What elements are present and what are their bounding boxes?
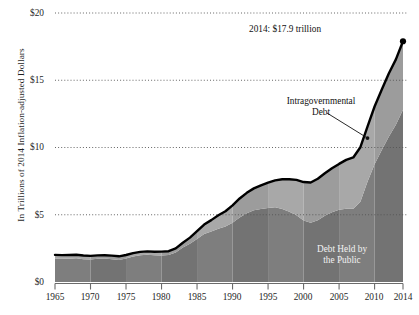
debt-chart: In Trillions of 2014 Inflation-adjusted … xyxy=(0,0,419,315)
plot-area xyxy=(0,0,419,315)
public-band xyxy=(197,9,233,286)
public-band xyxy=(126,9,162,286)
x-tick-2000: 2000 xyxy=(294,292,313,302)
x-tick-1980: 1980 xyxy=(152,292,171,302)
public-debt-label-line2: the Public xyxy=(299,255,385,266)
endpoint-annotation: 2014: $17.9 trillion xyxy=(249,24,321,35)
x-tick-2010: 2010 xyxy=(365,292,384,302)
x-tick-1975: 1975 xyxy=(117,292,136,302)
x-tick-2005: 2005 xyxy=(330,292,349,302)
x-tick-1970: 1970 xyxy=(81,292,100,302)
x-tick-2014: 2014 xyxy=(394,292,413,302)
x-tick-1990: 1990 xyxy=(223,292,242,302)
intragovernmental-debt-label-line2: Debt xyxy=(262,107,380,118)
public-debt-label: Debt Held by the Public xyxy=(299,244,385,266)
intragovernmental-debt-label-line1: Intragovernmental xyxy=(262,96,380,107)
public-band xyxy=(55,9,91,286)
intragovernmental-debt-label: Intragovernmental Debt xyxy=(262,96,380,118)
public-debt-label-line1: Debt Held by xyxy=(299,244,385,255)
intragovernmental-band xyxy=(55,9,91,286)
x-axis-tick-marks xyxy=(55,284,403,290)
x-tick-1995: 1995 xyxy=(259,292,278,302)
x-tick-1965: 1965 xyxy=(46,292,65,302)
endpoint-marker xyxy=(400,38,406,44)
x-tick-1985: 1985 xyxy=(188,292,207,302)
intragovernmental-band xyxy=(126,9,162,286)
